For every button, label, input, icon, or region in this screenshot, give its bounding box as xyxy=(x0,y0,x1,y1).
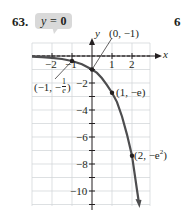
tick-x-m1: −1 xyxy=(65,58,77,70)
x-axis-arrow-icon xyxy=(155,53,162,59)
tick-y-m8: −8 xyxy=(76,158,88,170)
label-point-1: (1, −e) xyxy=(116,86,145,98)
label-point-0: (0, −1) xyxy=(109,27,139,39)
label-point-m1: (−1, − 1 e ) xyxy=(34,78,71,95)
tick-x-m2: −2 xyxy=(45,58,57,70)
tick-y-m2: −2 xyxy=(76,77,88,89)
callout-eq: = xyxy=(46,14,60,28)
asymptote-callout: y = 0 xyxy=(35,13,72,29)
fraction: 1 e xyxy=(62,78,66,95)
tick-x-1: 1 xyxy=(109,58,115,70)
fraction-denominator: e xyxy=(62,87,66,95)
curve-arrow-icon xyxy=(136,199,142,208)
label-point-m1-suffix: ) xyxy=(67,81,71,93)
callout-val: 0 xyxy=(60,14,66,28)
y-axis-label: y xyxy=(95,27,100,39)
label-point-2-prefix: (2, −e xyxy=(134,149,160,161)
tick-y-m6: −6 xyxy=(76,131,88,143)
label-point-2-suffix: ) xyxy=(163,149,167,161)
tick-x-2: 2 xyxy=(129,58,135,70)
tick-y-m10: −10 xyxy=(70,185,87,197)
label-point-m1-prefix: (−1, − xyxy=(34,81,61,93)
label-point-2: (2, −e2) xyxy=(134,148,167,161)
x-axis-label: x xyxy=(163,48,168,60)
y-axis-arrow-icon xyxy=(89,38,95,45)
graph xyxy=(0,0,181,210)
point-1 xyxy=(110,91,114,95)
tick-y-m4: −4 xyxy=(76,104,88,116)
